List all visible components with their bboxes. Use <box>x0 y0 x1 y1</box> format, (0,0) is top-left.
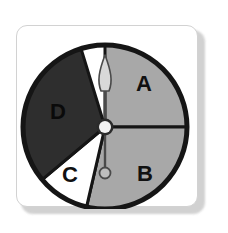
sector-label-d: D <box>50 99 66 124</box>
spinner-screenshot: ABCD <box>0 0 228 233</box>
sector-label-c: C <box>62 162 78 187</box>
spinner-container[interactable]: ABCD <box>16 25 200 209</box>
sector-label-b: B <box>137 161 153 186</box>
needle-counterweight <box>100 168 111 179</box>
hub-center[interactable] <box>99 121 111 133</box>
spinner-svg[interactable]: ABCD <box>16 25 200 209</box>
sector-label-a: A <box>136 71 152 96</box>
spinner-center-hub[interactable] <box>97 119 114 136</box>
